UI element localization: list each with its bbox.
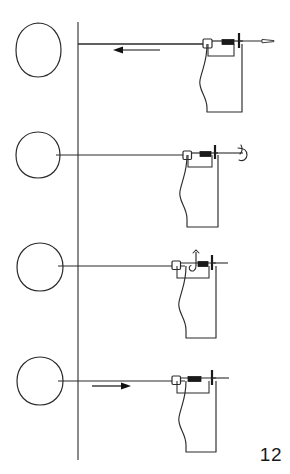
panel-3 [17,243,228,338]
panel-2-oval [16,132,60,178]
panel-1 [16,23,274,112]
panel-1-oval [16,23,61,77]
panel-4-oval [17,357,63,405]
panel-4-body [179,381,216,452]
panel-3-oval [17,243,63,291]
panel-1-left-arrow [113,47,160,54]
panel-2-mechanism [183,145,243,167]
panel-3-body [179,266,216,338]
panel-1-mechanism [203,33,274,56]
page-number: 12 [260,445,282,464]
panel-3-mechanism [172,255,228,278]
panel-2 [16,132,247,227]
panel-1-body [200,44,242,112]
panel-3-curl-detail [189,250,199,271]
panel-4-right-arrow [92,383,131,390]
figure-canvas [0,0,290,474]
panel-4-mechanism [172,370,229,393]
panel-4 [17,357,229,452]
technical-drawing-figure: 12 [0,0,290,474]
